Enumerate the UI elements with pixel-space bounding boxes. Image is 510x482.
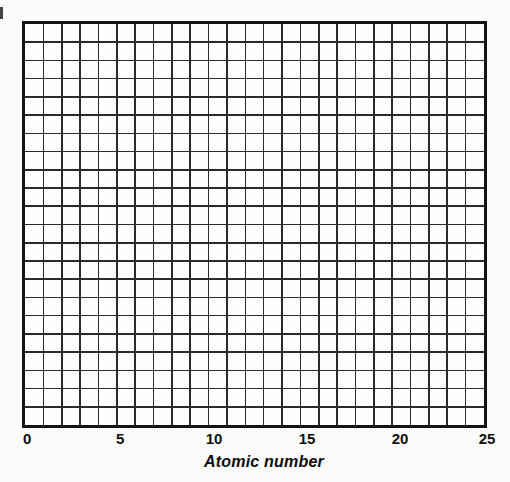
x-tick-label-15: 15 xyxy=(299,430,315,447)
x-tick-label-5: 5 xyxy=(116,430,124,447)
x-tick-label-25: 25 xyxy=(479,430,495,447)
x-axis-title: Atomic number xyxy=(0,452,510,472)
scan-artifact-mark xyxy=(0,7,3,19)
grid-lines xyxy=(25,24,484,425)
plot-area xyxy=(22,21,487,428)
figure-container: 0 5 10 15 20 25 Atomic number xyxy=(0,0,510,482)
x-tick-label-0: 0 xyxy=(23,430,31,447)
x-tick-label-10: 10 xyxy=(206,430,222,447)
x-tick-label-20: 20 xyxy=(392,430,408,447)
